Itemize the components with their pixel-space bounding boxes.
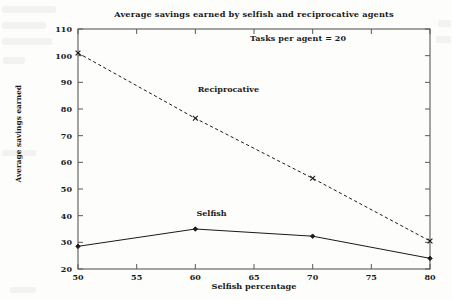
data-point-marker xyxy=(193,227,198,232)
x-tick-label: 75 xyxy=(351,272,391,282)
data-point-marker xyxy=(310,234,315,239)
data-point-marker xyxy=(310,176,315,181)
x-tick-label: 65 xyxy=(234,272,274,282)
y-tick-label: 40 xyxy=(38,211,72,221)
series-label-reciprocative: Reciprocative xyxy=(198,84,259,94)
x-tick-label: 80 xyxy=(410,272,450,282)
data-point-marker xyxy=(193,116,198,121)
y-tick-label: 100 xyxy=(38,51,72,61)
y-tick-label: 50 xyxy=(38,184,72,194)
y-tick-label: 70 xyxy=(38,131,72,141)
chart-page: Average savings earned by selfish and re… xyxy=(0,0,452,300)
x-tick-label: 60 xyxy=(175,272,215,282)
y-tick-label: 110 xyxy=(38,24,72,34)
data-point-marker xyxy=(428,256,433,261)
x-tick-label: 55 xyxy=(117,272,157,282)
y-tick-label: 80 xyxy=(38,104,72,114)
plot-area xyxy=(0,0,452,300)
x-tick-label: 70 xyxy=(293,272,333,282)
data-point-marker xyxy=(76,244,81,249)
x-tick-label: 50 xyxy=(58,272,98,282)
y-tick-label: 30 xyxy=(38,237,72,247)
series-line-selfish xyxy=(78,229,430,258)
y-tick-label: 60 xyxy=(38,157,72,167)
series-line-reciprocative xyxy=(78,53,430,241)
series-label-selfish: Selfish xyxy=(197,208,227,218)
y-tick-label: 90 xyxy=(38,77,72,87)
